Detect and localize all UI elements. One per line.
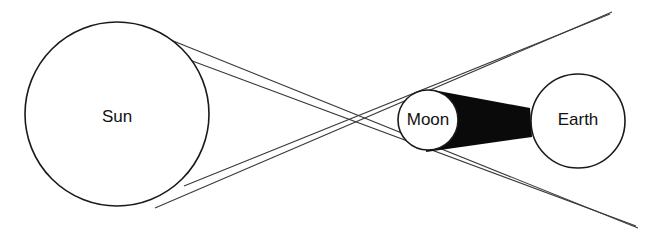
- earth-label: Earth: [558, 110, 599, 129]
- eclipse-diagram-canvas: Sun Moon Earth: [0, 0, 652, 231]
- sun-label: Sun: [102, 107, 132, 126]
- moon-label: Moon: [407, 110, 450, 129]
- eclipse-diagram: Sun Moon Earth: [0, 0, 652, 231]
